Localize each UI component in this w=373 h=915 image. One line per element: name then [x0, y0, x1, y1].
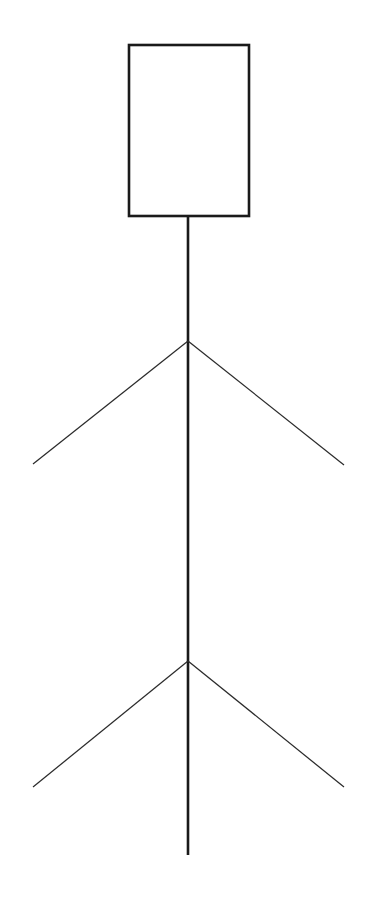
- stick-figure-drawing: [0, 0, 373, 915]
- head-rectangle: [129, 45, 249, 216]
- drawing-canvas: [0, 0, 373, 915]
